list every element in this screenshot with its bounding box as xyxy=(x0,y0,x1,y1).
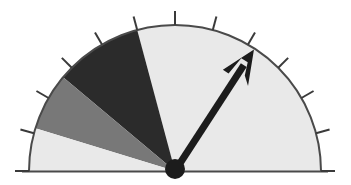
dial-texture xyxy=(29,25,321,171)
needle-hub xyxy=(165,159,185,179)
tick-mark xyxy=(95,32,102,44)
tick-mark xyxy=(248,32,255,44)
gauge-figure xyxy=(0,0,351,185)
tick-mark xyxy=(213,16,217,30)
tick-mark xyxy=(134,16,138,30)
tick-mark xyxy=(278,58,288,68)
tick-mark xyxy=(316,130,330,134)
tick-mark xyxy=(20,130,34,134)
tick-mark xyxy=(36,91,48,98)
gauge-canvas xyxy=(0,0,351,185)
tick-mark xyxy=(301,91,313,98)
tick-mark xyxy=(62,58,72,68)
